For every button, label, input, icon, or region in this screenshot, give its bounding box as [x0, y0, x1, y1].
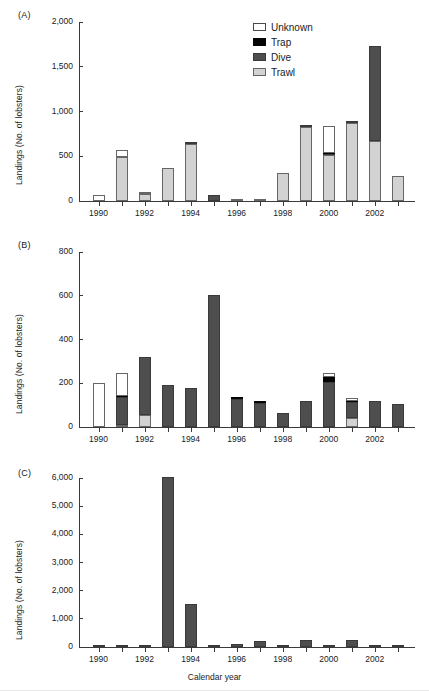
bar-1994[interactable]: [185, 142, 197, 201]
bar-segment-trap: [323, 377, 335, 382]
panel-a-y-axis: [79, 22, 80, 202]
bar-1993[interactable]: [162, 477, 174, 647]
bar-1998[interactable]: [277, 646, 289, 647]
y-tick-mark: [79, 156, 83, 157]
bar-1997[interactable]: [254, 641, 266, 647]
y-tick-label: 500: [59, 150, 73, 160]
bar-segment-dive: [369, 401, 381, 427]
y-tick-label: 800: [59, 246, 73, 256]
bar-segment-dive: [208, 195, 220, 201]
bar-2003[interactable]: [392, 176, 404, 201]
bar-2002[interactable]: [369, 646, 381, 647]
bar-1998[interactable]: [277, 173, 289, 201]
bar-1994[interactable]: [185, 604, 197, 647]
y-tick-mark: [79, 22, 83, 23]
bar-1993[interactable]: [162, 168, 174, 201]
legend-item-trap[interactable]: Trap: [253, 35, 313, 49]
bar-segment-unknown: [116, 150, 128, 157]
bar-1995[interactable]: [208, 645, 220, 647]
y-tick-label: 5,000: [52, 500, 73, 510]
bar-segment-unknown: [346, 398, 358, 401]
legend-swatch-dive-icon: [253, 53, 266, 61]
x-tick-label: 1994: [181, 654, 200, 664]
panel-a-tag: (A): [18, 10, 31, 20]
legend-label-trap: Trap: [271, 37, 291, 48]
bar-1990[interactable]: [93, 195, 105, 201]
x-tick-label: 2000: [319, 208, 338, 218]
bar-1996[interactable]: [231, 398, 243, 427]
bar-2003[interactable]: [392, 404, 404, 427]
x-tick-mark: [191, 428, 192, 432]
panel-a-plot: 05001,0001,5002,000199019921994199619982…: [79, 22, 415, 202]
panel-c-ylabel: Landings (No. of lobsters): [14, 540, 24, 640]
x-tick-label: 1998: [273, 208, 292, 218]
bar-1998[interactable]: [277, 413, 289, 427]
x-tick-label: 2002: [365, 654, 384, 664]
bar-2002[interactable]: [369, 401, 381, 427]
y-tick-mark: [79, 590, 83, 591]
panel-b-x-axis: [79, 427, 415, 428]
bar-segment-trawl: [323, 155, 335, 201]
y-tick-mark: [79, 111, 83, 112]
bar-2001[interactable]: [346, 640, 358, 647]
legend: Unknown Trap Dive Trawl: [253, 20, 313, 80]
bar-2000[interactable]: [323, 373, 335, 427]
x-tick-mark: [352, 202, 353, 206]
bar-segment-trawl: [369, 141, 381, 201]
bar-1992[interactable]: [139, 357, 151, 427]
bar-2000[interactable]: [323, 646, 335, 647]
bar-2002[interactable]: [369, 46, 381, 201]
bar-2001[interactable]: [346, 398, 358, 427]
x-tick-label: 2000: [319, 434, 338, 444]
bar-1997[interactable]: [254, 402, 266, 427]
x-tick-mark: [168, 202, 169, 206]
bar-1990[interactable]: [93, 646, 105, 647]
bar-1992[interactable]: [139, 194, 151, 201]
bar-1991[interactable]: [116, 150, 128, 201]
legend-item-dive[interactable]: Dive: [253, 50, 313, 64]
bar-1999[interactable]: [300, 401, 312, 427]
bar-1995[interactable]: [208, 295, 220, 427]
bar-1991[interactable]: [116, 373, 128, 427]
x-axis-title: Calendar year: [0, 672, 429, 682]
x-tick-label: 1998: [273, 434, 292, 444]
x-tick-mark: [191, 202, 192, 206]
legend-label-dive: Dive: [271, 52, 291, 63]
bar-1999[interactable]: [300, 126, 312, 201]
x-tick-mark: [122, 202, 123, 206]
bar-segment-dive: [323, 382, 335, 427]
bar-1991[interactable]: [116, 645, 128, 647]
bar-1996[interactable]: [231, 644, 243, 647]
bar-1996[interactable]: [231, 200, 243, 201]
y-tick-mark: [79, 295, 83, 296]
bar-1999[interactable]: [300, 640, 312, 647]
bar-1992[interactable]: [139, 646, 151, 647]
bar-1993[interactable]: [162, 385, 174, 427]
legend-item-unknown[interactable]: Unknown: [253, 20, 313, 34]
bar-segment-trawl: [116, 425, 128, 427]
bar-2001[interactable]: [346, 121, 358, 201]
bar-segment-dive: [162, 477, 174, 647]
y-tick-mark: [79, 506, 83, 507]
panel-b-plot: 0200400600800199019921994199619982000200…: [79, 252, 415, 428]
panel-a-ylabel: Landings (No. of lobsters): [14, 85, 24, 185]
x-tick-mark: [352, 428, 353, 432]
legend-item-trawl[interactable]: Trawl: [253, 65, 313, 79]
bar-segment-dive: [392, 404, 404, 427]
bar-1995[interactable]: [208, 195, 220, 201]
bar-segment-trawl: [392, 176, 404, 201]
bar-2003[interactable]: [392, 645, 404, 647]
x-tick-mark: [398, 428, 399, 432]
bar-1994[interactable]: [185, 388, 197, 427]
bar-2000[interactable]: [323, 126, 335, 201]
bar-1990[interactable]: [93, 383, 105, 427]
panel-c-tag: (C): [18, 468, 31, 478]
y-tick-label: 6,000: [52, 472, 73, 482]
panel-b-ylabel: Landings (No. of lobsters): [14, 314, 24, 414]
bar-segment-dive: [208, 645, 220, 647]
bar-1997[interactable]: [254, 200, 266, 201]
x-tick-mark: [283, 428, 284, 432]
x-tick-label: 1990: [89, 434, 108, 444]
bar-segment-dive: [116, 645, 128, 647]
x-tick-mark: [122, 648, 123, 652]
